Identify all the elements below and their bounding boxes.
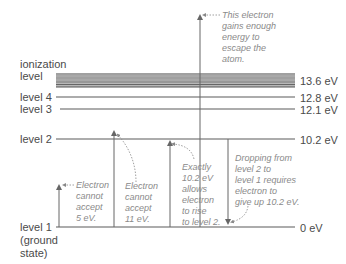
label-level4: level 4 <box>20 91 52 103</box>
pointer-exact <box>173 144 194 159</box>
pointer-11ev <box>118 135 136 182</box>
energy-diagram-canvas <box>0 0 346 264</box>
label-level3: level 3 <box>20 103 52 115</box>
label-level1: level 1 <box>20 221 52 233</box>
note-drop: Dropping from level 2 to level 1 require… <box>235 153 299 208</box>
label-ionization: ionization <box>20 58 66 70</box>
pointer-drop <box>232 206 248 222</box>
note-5ev: Electron cannot accept 5 eV. <box>76 180 109 224</box>
energy-level4: 12.8 eV <box>300 92 338 104</box>
label-level2: level 2 <box>20 133 52 145</box>
label-ground: (ground <box>20 234 58 246</box>
energy-level2: 10.2 eV <box>300 134 338 146</box>
label-ionization-level: level <box>20 70 43 82</box>
energy-ionization: 13.6 eV <box>300 75 338 87</box>
ionization-band <box>56 73 295 87</box>
energy-level3: 12.1 eV <box>300 104 338 116</box>
note-exact: Exactly 10.2 eV allows electron to rise … <box>182 162 221 228</box>
label-state: state) <box>20 247 48 259</box>
note-escape: This electron gains enough energy to esc… <box>222 10 276 65</box>
energy-level1: 0 eV <box>300 222 323 234</box>
note-11ev: Electron cannot accept 11 eV. <box>125 181 158 225</box>
